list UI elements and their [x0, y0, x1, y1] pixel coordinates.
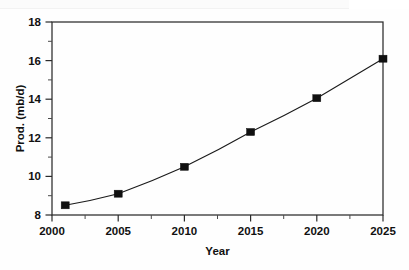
x-tick-label-2015: 2015: [238, 225, 264, 237]
y-tick-label-14: 14: [28, 93, 41, 105]
y-tick-label-18: 18: [28, 16, 41, 28]
x-tick-label-2025: 2025: [370, 225, 396, 237]
y-tick-label-12: 12: [28, 132, 41, 144]
chart-figure: 8 10 12 14 16 18 2000 2005 2010 2015 202…: [0, 0, 409, 270]
x-tick-label-2020: 2020: [304, 225, 330, 237]
x-axis-title: Year: [205, 245, 230, 257]
data-point-2015: [247, 129, 255, 136]
x-tick-label-2005: 2005: [105, 225, 131, 237]
data-point-2005: [114, 190, 122, 197]
x-tick-label-2010: 2010: [172, 225, 198, 237]
production-series-markers: [61, 55, 387, 209]
y-tick-label-8: 8: [35, 209, 42, 221]
data-point-2001: [61, 202, 69, 209]
y-tick-label-16: 16: [28, 55, 41, 67]
production-series-line: [65, 59, 383, 206]
y-axis-title: Prod. (mb/d): [14, 84, 26, 152]
data-point-2025: [379, 55, 387, 62]
y-tick-label-10: 10: [28, 170, 41, 182]
x-tick-label-2000: 2000: [39, 225, 65, 237]
plot-frame: [52, 22, 383, 215]
line-chart-plot: 8 10 12 14 16 18 2000 2005 2010 2015 202…: [0, 0, 409, 270]
data-point-2020: [313, 95, 321, 102]
data-point-2010: [180, 163, 188, 170]
